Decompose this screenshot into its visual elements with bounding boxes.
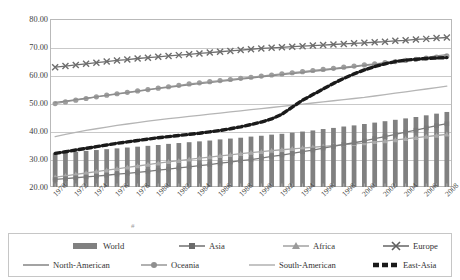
data-point	[290, 151, 295, 156]
data-point	[393, 132, 398, 137]
bar	[321, 129, 326, 187]
bar	[156, 145, 161, 187]
data-point	[445, 121, 450, 126]
data-point	[372, 136, 377, 141]
data-point	[228, 160, 233, 165]
stray-glyph: #	[131, 222, 135, 230]
data-point	[63, 176, 68, 181]
legend-key-line-plain-icon	[247, 259, 277, 271]
data-point	[321, 146, 326, 151]
data-point	[434, 123, 439, 128]
data-point	[311, 148, 316, 153]
legend-row-2: North-American Oceania South-American Ea…	[9, 255, 451, 275]
legend-item-europe[interactable]: Europe	[381, 236, 438, 256]
bar	[352, 125, 357, 187]
data-point	[403, 130, 408, 135]
bar	[300, 132, 305, 187]
bar	[259, 136, 264, 187]
data-point	[352, 140, 357, 145]
data-point	[414, 128, 419, 133]
data-point	[362, 139, 367, 144]
y-tick-label: 80.00	[0, 15, 48, 24]
data-point	[424, 126, 429, 131]
legend-item-north-american[interactable]: North-American	[21, 255, 110, 275]
bar	[280, 134, 285, 187]
data-point	[84, 175, 89, 180]
legend-key-bar-icon	[71, 240, 101, 252]
data-point	[166, 167, 171, 172]
data-point	[218, 161, 223, 166]
legend-item-east-asia[interactable]: East-Asia	[371, 255, 436, 275]
legend-label: Oceania	[171, 261, 199, 270]
y-tick-label: 70.00	[0, 43, 48, 52]
data-point	[280, 153, 285, 158]
legend-label: South-American	[279, 261, 336, 270]
data-point	[341, 142, 346, 147]
legend-label: East-Asia	[403, 261, 436, 270]
bar	[94, 150, 99, 187]
bar	[53, 153, 58, 187]
legend-label: Asia	[209, 242, 225, 251]
data-point	[125, 171, 130, 176]
bar	[269, 135, 274, 187]
legend-item-asia[interactable]: Asia	[177, 236, 225, 256]
bar	[403, 118, 408, 187]
data-point	[146, 169, 151, 174]
legend-key-line-plain-icon	[21, 259, 51, 271]
bar	[372, 123, 377, 187]
bar	[166, 144, 171, 187]
data-point	[383, 134, 388, 139]
data-point	[269, 154, 274, 159]
bar	[176, 143, 181, 187]
legend-item-south-american[interactable]: South-American	[247, 255, 336, 275]
y-tick-label: 30.00	[0, 155, 48, 164]
legend: World Asia Africa Europe	[8, 233, 452, 277]
chart-container: 80.00 70.00 60.00 50.00 40.00 30.00 20.0…	[0, 0, 460, 280]
data-point	[177, 166, 182, 171]
data-point	[135, 170, 140, 175]
legend-label: North-American	[53, 261, 110, 270]
y-tick-label: 40.00	[0, 127, 48, 136]
line-series-europe	[52, 34, 450, 70]
data-point	[73, 175, 78, 180]
legend-item-oceania[interactable]: Oceania	[139, 255, 199, 275]
bar	[310, 130, 315, 187]
legend-item-world[interactable]: World	[71, 236, 124, 256]
bar	[362, 124, 367, 187]
data-point	[115, 172, 120, 177]
data-point	[53, 177, 58, 182]
bar-series-world	[53, 112, 449, 187]
data-point	[259, 156, 264, 161]
y-tick-label: 20.00	[0, 183, 48, 192]
legend-item-africa[interactable]: Africa	[281, 236, 335, 256]
legend-key-line-cross-icon	[381, 240, 411, 252]
data-point	[300, 149, 305, 154]
bar	[383, 121, 388, 187]
data-point	[249, 157, 254, 162]
bar	[331, 128, 336, 187]
legend-label: World	[103, 242, 124, 251]
data-point	[156, 168, 161, 173]
bar	[414, 117, 419, 187]
data-point	[197, 163, 202, 168]
legend-key-line-circle-icon	[139, 259, 169, 271]
data-point	[331, 144, 336, 149]
legend-row-1: World Asia Africa Europe	[9, 236, 451, 256]
legend-key-line-square-icon	[177, 240, 207, 252]
legend-key-line-triangle-icon	[281, 240, 311, 252]
bar	[73, 152, 78, 187]
data-point	[207, 162, 212, 167]
data-point	[187, 165, 192, 170]
y-tick-label: 60.00	[0, 71, 48, 80]
x-axis: 1970197219741976197819801982198419861988…	[50, 189, 452, 231]
chart-series-layer	[50, 19, 452, 187]
bar	[341, 127, 346, 187]
y-tick-label: 50.00	[0, 99, 48, 108]
legend-label: Africa	[313, 242, 335, 251]
legend-key-line-thick-icon	[371, 259, 401, 271]
bar	[290, 133, 295, 187]
data-point	[94, 174, 99, 179]
data-point	[104, 173, 109, 178]
legend-label: Europe	[413, 242, 438, 251]
data-point	[238, 158, 243, 163]
